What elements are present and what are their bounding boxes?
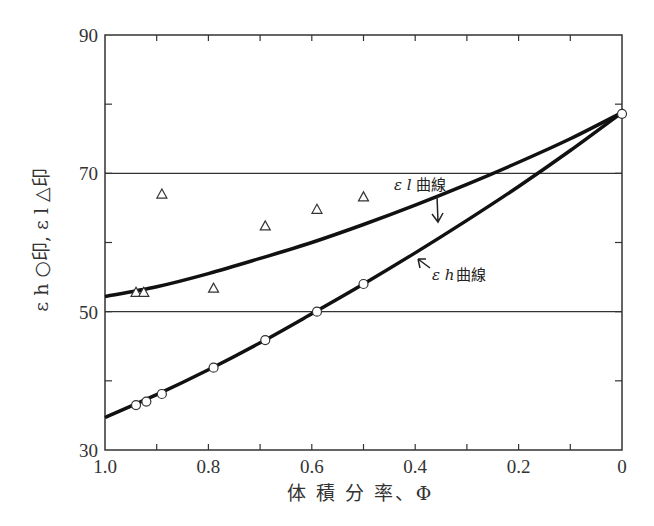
tick-labels: 1.00.80.60.40.2030507090: [79, 25, 627, 477]
triangle-marker: [209, 283, 219, 292]
axis-ticks: [105, 35, 622, 450]
arrow-up-left-icon: [418, 259, 430, 268]
chart: 1.00.80.60.40.2030507090 ε l 曲線 ε h 曲線 体…: [0, 0, 654, 526]
x-tick-label: 0.4: [403, 456, 427, 477]
x-tick-label: 0: [617, 456, 627, 477]
x-tick-label: 0.6: [300, 456, 324, 477]
x-tick-label: 0.2: [507, 456, 531, 477]
x-tick-label: 0.8: [197, 456, 221, 477]
y-tick-label: 50: [79, 302, 98, 323]
circle-marker: [157, 389, 166, 398]
curve-line: [105, 112, 622, 296]
circle-marker: [132, 401, 141, 410]
circle-marker: [209, 363, 218, 372]
y-tick-label: 70: [79, 163, 98, 184]
y-tick-label: 90: [79, 25, 98, 46]
circle-marker: [618, 109, 627, 118]
data-markers: [131, 109, 626, 409]
x-axis-title: 体 積 分 率、Φ: [287, 482, 434, 504]
arrow-down-icon: [432, 196, 443, 222]
annotation-eh-text: 曲線: [456, 266, 486, 284]
y-axis-title: ε h ○印, ε l △印: [30, 168, 52, 311]
circle-marker: [261, 336, 270, 345]
triangle-marker: [359, 192, 369, 201]
curves: [105, 112, 622, 417]
triangle-marker: [157, 189, 167, 198]
y-tick-label: 30: [79, 440, 98, 461]
circle-marker: [142, 397, 151, 406]
annotation-el-text: 曲線: [416, 176, 446, 194]
circle-marker: [359, 280, 368, 289]
triangle-marker: [312, 204, 322, 213]
plot-frame: [105, 35, 622, 450]
circle-marker: [312, 307, 321, 316]
annotation-eh-symbol: ε h: [432, 266, 454, 284]
annotation-el-symbol: ε l: [394, 176, 412, 194]
plot-border: [105, 35, 622, 450]
curve-line: [105, 112, 622, 417]
annotations: ε l 曲線 ε h 曲線: [394, 176, 486, 284]
triangle-marker: [260, 221, 270, 230]
